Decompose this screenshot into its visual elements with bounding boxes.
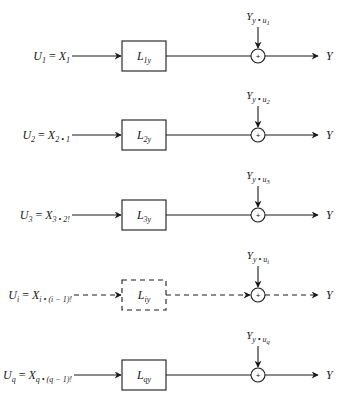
plus-sign: + bbox=[256, 131, 261, 140]
input-label-q: Uq = Xq • (q − 1)! bbox=[3, 369, 72, 381]
block-label-1: L1y bbox=[122, 50, 166, 62]
branch-row-1: + bbox=[72, 27, 318, 71]
branch-row-q: + bbox=[74, 346, 318, 390]
branch-row-2: + bbox=[72, 106, 318, 150]
branch-row-i-dashed: + bbox=[74, 266, 318, 310]
input-label-1: U1 = X1 bbox=[33, 50, 70, 62]
output-label-i: Y bbox=[326, 289, 333, 301]
output-label-1: Y bbox=[326, 50, 333, 62]
feed-label-2: Yy • u2 bbox=[242, 90, 274, 102]
input-label-i: Ui = Xi • (i − 1)! bbox=[8, 289, 72, 301]
plus-sign: + bbox=[256, 291, 261, 300]
feed-label-1: Yy • u1 bbox=[242, 11, 274, 23]
output-label-3: Y bbox=[326, 209, 333, 221]
block-label-q: Lqy bbox=[122, 369, 166, 381]
input-label-3: U3 = X3 • 2! bbox=[20, 209, 70, 221]
feed-label-i: Yy • ui bbox=[242, 250, 274, 262]
block-label-i: Liy bbox=[122, 289, 166, 301]
feed-label-q: Yy • uq bbox=[242, 330, 274, 342]
plus-sign: + bbox=[256, 371, 261, 380]
feed-label-3: Yy • u3 bbox=[242, 170, 274, 182]
block-label-3: L3y bbox=[122, 209, 166, 221]
plus-sign: + bbox=[256, 211, 261, 220]
input-label-2: U2 = X2 • 1 bbox=[22, 129, 70, 141]
block-label-2: L2y bbox=[122, 129, 166, 141]
branch-row-3: + bbox=[72, 186, 318, 230]
plus-sign: + bbox=[256, 52, 261, 61]
output-label-2: Y bbox=[326, 129, 333, 141]
output-label-q: Y bbox=[326, 369, 333, 381]
